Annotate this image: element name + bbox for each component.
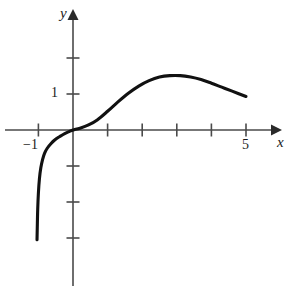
y-axis: [67, 9, 80, 286]
y-tick-label-1: 1: [51, 86, 58, 100]
x-tick-label-negative-1: −1: [23, 138, 38, 152]
y-axis-arrowhead: [68, 9, 79, 20]
graph-figure: y x 1 −1 5: [0, 0, 292, 289]
function-curve: [37, 75, 246, 239]
x-axis-label: x: [277, 135, 284, 150]
x-axis: [5, 124, 282, 137]
x-tick-label-5: 5: [242, 138, 249, 152]
y-axis-label: y: [60, 6, 67, 21]
